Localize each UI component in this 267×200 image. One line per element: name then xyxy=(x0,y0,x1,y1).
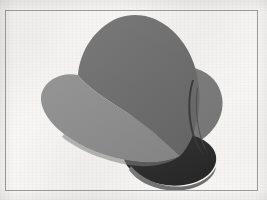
figure-root xyxy=(0,0,267,200)
surface-plot xyxy=(0,0,267,200)
